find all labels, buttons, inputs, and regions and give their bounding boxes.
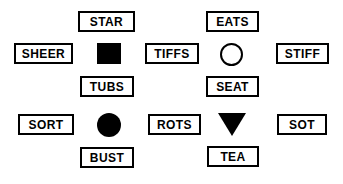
- filled-circle-icon: [97, 113, 121, 137]
- word-box-label: TIFFS: [154, 48, 189, 60]
- word-box-label: TEA: [220, 151, 245, 163]
- word-box-tea[interactable]: TEA: [207, 146, 259, 167]
- word-box-sot[interactable]: SOT: [277, 114, 327, 135]
- word-box-label: SHEER: [22, 48, 65, 60]
- filled-square-icon: [97, 43, 121, 64]
- word-box-stiff[interactable]: STIFF: [276, 43, 329, 64]
- word-box-label: EATS: [216, 16, 249, 28]
- diagram-canvas: STAR EATS SHEER TIFFS STIFF TUBS SEAT SO…: [0, 0, 343, 184]
- word-box-label: BUST: [90, 152, 124, 164]
- filled-triangle-down-icon: [218, 113, 246, 136]
- word-box-label: STIFF: [285, 48, 320, 60]
- word-box-bust[interactable]: BUST: [80, 147, 134, 168]
- word-box-label: TUBS: [90, 81, 124, 93]
- word-box-seat[interactable]: SEAT: [206, 76, 259, 97]
- word-box-star[interactable]: STAR: [78, 11, 135, 32]
- word-box-label: ROTS: [157, 119, 192, 131]
- word-box-label: SOT: [289, 119, 315, 131]
- word-box-tiffs[interactable]: TIFFS: [145, 43, 199, 64]
- word-box-sort[interactable]: SORT: [18, 114, 74, 135]
- word-box-label: STAR: [90, 16, 123, 28]
- word-box-sheer[interactable]: SHEER: [14, 43, 73, 64]
- word-box-eats[interactable]: EATS: [206, 11, 259, 32]
- word-box-label: SORT: [29, 119, 64, 131]
- outlined-circle-icon: [220, 43, 243, 66]
- word-box-label: SEAT: [216, 81, 249, 93]
- word-box-tubs[interactable]: TUBS: [80, 76, 134, 97]
- word-box-rots[interactable]: ROTS: [148, 114, 201, 135]
